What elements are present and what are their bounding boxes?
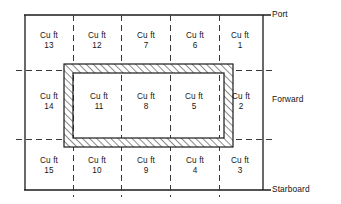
cargo-hold-diagram: Cu ft 13 Cu ft 12 Cu ft 7 Cu ft 6 Cu ft … xyxy=(0,0,341,204)
edge-label-starboard: Starboard xyxy=(272,184,310,194)
edge-label-forward: Forward xyxy=(272,94,303,104)
edge-label-port: Port xyxy=(272,9,288,19)
hatched-trunk-frame xyxy=(64,64,233,147)
